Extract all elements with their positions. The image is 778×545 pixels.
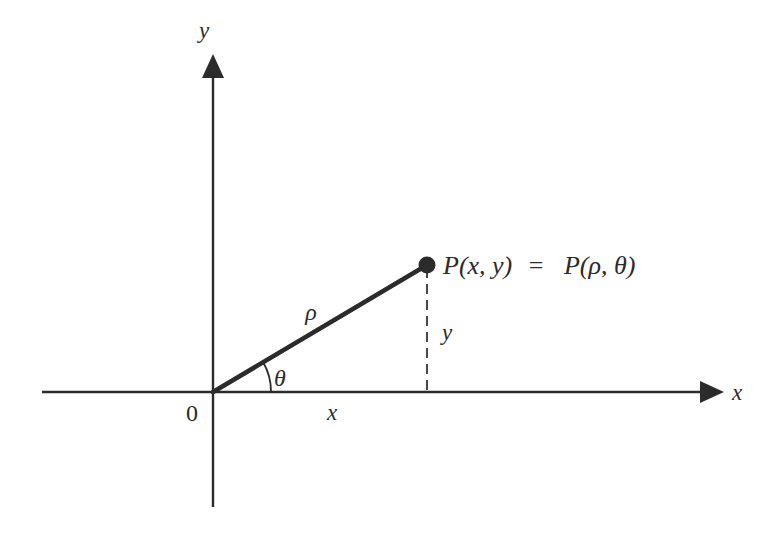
figure-canvas: y x 0 ρ θ x y P(x, y) = P(ρ, θ) [0,0,778,545]
point-p-marker [419,257,436,274]
origin-label: 0 [186,400,198,426]
x-component-label: x [326,400,338,425]
y-axis-arrowhead-icon [202,54,224,78]
y-axis-label: y [197,18,210,43]
x-axis-arrowhead-icon [700,381,724,403]
x-axis-label: x [731,380,743,405]
equation-equals-sign: = [529,251,544,280]
y-component-label: y [440,320,453,345]
theta-label: θ [274,365,286,391]
theta-angle-arc [263,362,271,392]
point-equation: P(x, y) = P(ρ, θ) [442,251,635,280]
equation-right-part: P(ρ, θ) [563,251,635,280]
rho-label: ρ [304,299,317,325]
radius-ray-rho [213,265,427,392]
equation-left-part: P(x, y) [442,251,512,280]
coordinate-diagram: y x 0 ρ θ x y P(x, y) = P(ρ, θ) [0,0,778,545]
